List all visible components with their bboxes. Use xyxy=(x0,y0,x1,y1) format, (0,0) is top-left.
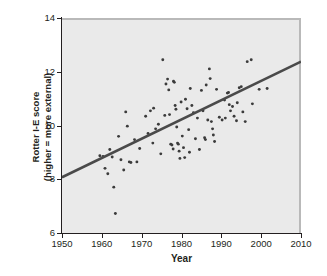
data-point xyxy=(187,128,190,131)
x-tick-label: 2000 xyxy=(241,238,281,249)
data-point xyxy=(206,119,209,122)
data-point xyxy=(240,85,243,88)
data-point xyxy=(215,88,218,91)
x-tick-label: 1960 xyxy=(82,238,122,249)
data-point xyxy=(258,88,261,91)
y-tick-mark xyxy=(57,233,61,234)
scatter-plot-figure: 68101214 1950196019701980199020002010 Ye… xyxy=(0,0,327,276)
data-point xyxy=(221,119,224,122)
data-point xyxy=(114,212,117,215)
data-point xyxy=(233,115,236,118)
data-point xyxy=(211,127,214,130)
plot-panel xyxy=(62,18,301,233)
data-point xyxy=(218,116,221,119)
data-point xyxy=(166,78,169,81)
data-point xyxy=(98,154,101,157)
data-point xyxy=(212,134,215,137)
data-point xyxy=(117,135,120,138)
data-point xyxy=(241,110,244,113)
data-point xyxy=(168,113,171,116)
data-point xyxy=(165,83,168,86)
data-point xyxy=(152,107,155,110)
data-point xyxy=(251,102,254,105)
data-point xyxy=(126,125,129,128)
data-point xyxy=(208,67,211,70)
data-point xyxy=(178,150,181,153)
data-point xyxy=(194,137,197,140)
data-point xyxy=(151,142,154,145)
data-point xyxy=(205,84,208,87)
data-point xyxy=(229,109,232,112)
data-point xyxy=(244,120,247,123)
data-point xyxy=(231,105,234,108)
data-point xyxy=(250,58,253,61)
data-point xyxy=(154,127,157,130)
data-point xyxy=(209,77,212,80)
data-point xyxy=(228,103,231,106)
data-point xyxy=(174,104,177,107)
data-point xyxy=(112,186,115,189)
data-point xyxy=(210,120,213,123)
data-points-group xyxy=(98,58,268,215)
data-point xyxy=(183,156,186,159)
data-point xyxy=(172,148,175,151)
data-point xyxy=(167,88,170,91)
y-tick-label: 6 xyxy=(50,228,55,238)
data-point xyxy=(120,158,123,161)
data-point xyxy=(178,157,181,160)
data-point xyxy=(159,152,162,155)
data-point xyxy=(177,143,180,146)
data-point xyxy=(204,138,207,141)
data-point xyxy=(157,123,160,126)
data-point xyxy=(246,60,249,63)
data-point xyxy=(224,117,227,120)
y-tick-mark xyxy=(57,18,61,19)
y-axis-title: Rotter I-E score (higher = more external… xyxy=(30,42,54,212)
data-point xyxy=(108,148,111,151)
data-point xyxy=(186,107,189,110)
y-axis-line xyxy=(61,17,62,234)
data-point xyxy=(111,156,114,159)
data-point xyxy=(173,81,176,84)
y-tick-mark xyxy=(57,126,61,127)
data-point xyxy=(129,161,132,164)
y-axis-title-line1: Rotter I-E score xyxy=(30,42,42,212)
data-point xyxy=(174,108,177,111)
data-point xyxy=(236,101,239,104)
x-axis-title: Year xyxy=(62,253,301,264)
data-point xyxy=(106,172,109,175)
data-point xyxy=(198,148,201,151)
x-tick-label: 1980 xyxy=(162,238,202,249)
data-point xyxy=(227,91,230,94)
data-point xyxy=(235,119,238,122)
data-point xyxy=(170,144,173,147)
data-point xyxy=(135,160,138,163)
plot-canvas xyxy=(62,20,301,235)
data-point xyxy=(138,147,141,150)
y-tick-label: 14 xyxy=(44,13,55,23)
data-point xyxy=(149,109,152,112)
data-point xyxy=(163,114,166,117)
data-point xyxy=(182,146,185,149)
data-point xyxy=(196,117,199,120)
data-point xyxy=(200,89,203,92)
data-point xyxy=(144,115,147,118)
data-point xyxy=(180,101,183,104)
data-point xyxy=(184,98,187,101)
y-tick-mark xyxy=(57,179,61,180)
data-point xyxy=(266,87,269,90)
data-point xyxy=(175,126,178,129)
data-point xyxy=(189,87,192,90)
data-point xyxy=(181,135,184,138)
data-point xyxy=(122,169,125,172)
x-tick-label: 2010 xyxy=(281,238,321,249)
x-tick-label: 1970 xyxy=(122,238,162,249)
data-point xyxy=(161,58,164,61)
data-point xyxy=(190,104,193,107)
x-tick-label: 1990 xyxy=(201,238,241,249)
data-point xyxy=(188,151,191,154)
data-point xyxy=(104,167,107,170)
y-tick-mark xyxy=(57,72,61,73)
regression-trendline xyxy=(62,62,301,178)
x-tick-label: 1950 xyxy=(42,238,82,249)
